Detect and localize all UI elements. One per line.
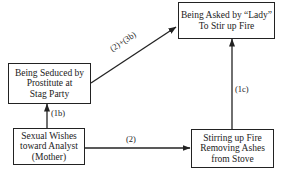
node-line: Prostitute at	[27, 78, 73, 89]
node-line: Being Asked by “Lady”	[181, 10, 272, 21]
node-line: Sexual Wishes	[21, 131, 77, 142]
node-line: Being Seduced by	[15, 68, 84, 79]
node-line: (Mother)	[32, 152, 66, 163]
node-line: Stirring up Fire	[203, 133, 262, 144]
node-stirring-up-fire: Stirring up Fire Removing Ashes from Sto…	[191, 129, 274, 168]
node-line: To Stir up Fire	[199, 21, 255, 32]
node-line: Stag Party	[30, 89, 69, 100]
node-line: Removing Ashes	[200, 143, 265, 154]
node-sexual-wishes: Sexual Wishes toward Analyst (Mother)	[13, 128, 85, 165]
edge-label-1c: (1c)	[235, 84, 249, 94]
node-line: from Stove	[211, 154, 253, 165]
node-being-asked-by-lady: Being Asked by “Lady” To Stir up Fire	[178, 2, 275, 39]
node-being-seduced: Being Seduced by Prostitute at Stag Part…	[8, 63, 91, 104]
node-line: toward Analyst	[20, 141, 78, 152]
edge-label-2: (2)	[126, 134, 136, 144]
edge-label-1b: (1b)	[51, 108, 65, 118]
